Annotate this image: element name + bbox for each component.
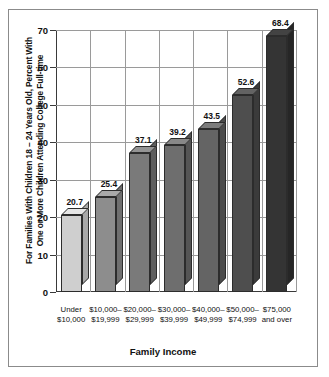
y-axis-tick-label: 30 bbox=[37, 174, 48, 185]
grid-line-vertical bbox=[296, 30, 297, 292]
grid-line-horizontal bbox=[56, 67, 296, 68]
bar bbox=[266, 36, 287, 292]
bar-side-face bbox=[150, 139, 157, 285]
bar bbox=[61, 215, 82, 292]
x-axis-title: Family Income bbox=[9, 346, 317, 357]
bar-value-label: 20.7 bbox=[55, 197, 95, 207]
bar bbox=[129, 153, 150, 292]
y-axis-tick bbox=[50, 67, 56, 68]
x-axis-category-label: $75,000and over bbox=[254, 305, 300, 324]
grid-line-horizontal bbox=[56, 30, 296, 31]
y-axis-title-line-2: One or More Children Attending College F… bbox=[34, 14, 45, 288]
bar-side-face bbox=[185, 131, 192, 285]
bar bbox=[95, 197, 116, 292]
grid-line-vertical bbox=[90, 30, 91, 292]
bar-value-label: 43.5 bbox=[192, 111, 232, 121]
bar bbox=[198, 129, 219, 292]
grid-line-vertical bbox=[227, 30, 228, 292]
y-axis-tick bbox=[50, 30, 56, 31]
y-axis-tick-label: 40 bbox=[37, 137, 48, 148]
bar-value-label: 68.4 bbox=[260, 18, 300, 28]
bar-front-face bbox=[129, 153, 150, 292]
bar-side-face bbox=[287, 22, 294, 285]
x-axis-label-line-2: and over bbox=[254, 315, 300, 325]
bar-front-face bbox=[266, 36, 287, 292]
bar-side-face bbox=[219, 115, 226, 285]
bar bbox=[164, 145, 185, 292]
y-axis-tick bbox=[50, 142, 56, 143]
bar-front-face bbox=[61, 215, 82, 292]
bar-side-face bbox=[253, 81, 260, 285]
bar-value-label: 52.6 bbox=[226, 77, 266, 87]
chart-figure: For Families With Children 18 – 24 Years… bbox=[0, 0, 329, 377]
y-axis-tick bbox=[50, 105, 56, 106]
y-axis-tick bbox=[50, 255, 56, 256]
figure-frame: For Families With Children 18 – 24 Years… bbox=[8, 9, 318, 367]
bar-front-face bbox=[232, 95, 253, 292]
grid-line-vertical bbox=[159, 30, 160, 292]
y-axis-title-line-1: For Families With Children 18 – 24 Years… bbox=[24, 14, 35, 288]
bar-front-face bbox=[164, 145, 185, 292]
bar-front-face bbox=[95, 197, 116, 292]
y-axis-tick-label: 70 bbox=[37, 25, 48, 36]
grid-line-vertical bbox=[193, 30, 194, 292]
y-axis-tick-label: 60 bbox=[37, 62, 48, 73]
y-axis-tick-label: 10 bbox=[37, 249, 48, 260]
y-axis-tick-label: 0 bbox=[43, 287, 48, 298]
y-axis-tick bbox=[50, 180, 56, 181]
bar-value-label: 25.4 bbox=[89, 179, 129, 189]
grid-line-vertical bbox=[125, 30, 126, 292]
y-axis-tick bbox=[50, 217, 56, 218]
bar bbox=[232, 95, 253, 292]
grid-line-vertical bbox=[262, 30, 263, 292]
bar-side-face bbox=[116, 183, 123, 285]
bar-value-label: 39.2 bbox=[158, 127, 198, 137]
plot-area: 010203040506070 20.725.437.139.243.552.6… bbox=[56, 30, 296, 292]
y-axis-title: For Families With Children 18 – 24 Years… bbox=[24, 14, 45, 288]
y-axis-tick-label: 50 bbox=[37, 99, 48, 110]
x-axis-label-line-1: $75,000 bbox=[254, 305, 300, 315]
y-axis-tick-label: 20 bbox=[37, 212, 48, 223]
y-axis-tick bbox=[50, 292, 56, 293]
grid-line-horizontal bbox=[56, 105, 296, 106]
bar-front-face bbox=[198, 129, 219, 292]
